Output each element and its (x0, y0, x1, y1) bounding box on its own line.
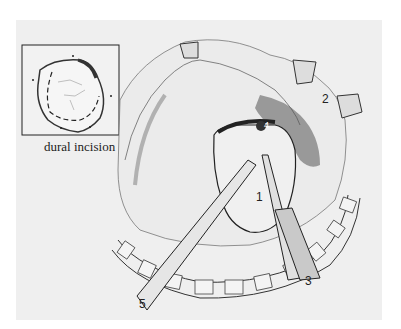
label-5: 5 (139, 297, 146, 311)
label-4: 4 (264, 120, 269, 130)
label-1: 1 (256, 190, 263, 204)
label-3: 3 (305, 274, 312, 288)
surgical-illustration (0, 0, 401, 329)
inset-dural-incision (22, 45, 119, 135)
inset-caption: dural incision (44, 139, 115, 155)
label-2: 2 (322, 92, 329, 106)
